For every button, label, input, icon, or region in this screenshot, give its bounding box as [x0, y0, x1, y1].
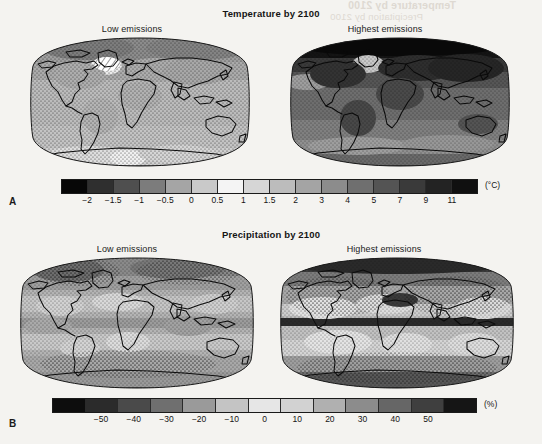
panel-b-colorbar: −50 −40 −30 −20 −10 0 10 20 30 40 50 (%)	[52, 398, 477, 428]
panel-a-temperature: Temperature by 2100 Low emissions Highes…	[0, 0, 542, 222]
colorbar-tick: 1.5	[264, 195, 276, 205]
panel-b-map-high-label: Highest emissions	[296, 244, 472, 254]
colorbar-swatch	[151, 399, 184, 412]
panel-a-colorbar-gradient	[61, 179, 478, 194]
colorbar-tick: −50	[94, 414, 108, 424]
colorbar-swatch	[62, 180, 88, 193]
colorbar-swatch	[216, 399, 249, 412]
colorbar-swatch	[218, 180, 244, 193]
colorbar-tick: 3	[319, 195, 324, 205]
colorbar-swatch	[444, 399, 476, 412]
colorbar-swatch	[322, 180, 348, 193]
colorbar-tick: 0.5	[211, 195, 223, 205]
colorbar-tick: 7	[397, 195, 402, 205]
panel-a-map-high-label: Highest emissions	[300, 24, 470, 34]
colorbar-tick: 9	[424, 195, 429, 205]
panel-b-title: Precipitation by 2100	[0, 229, 542, 240]
panel-b-letter: B	[9, 418, 17, 429]
colorbar-tick: −0.5	[157, 195, 174, 205]
colorbar-swatch	[281, 399, 314, 412]
colorbar-swatch	[244, 180, 270, 193]
colorbar-tick: 0	[189, 195, 194, 205]
colorbar-tick: −2	[82, 195, 92, 205]
colorbar-swatch	[183, 399, 216, 412]
colorbar-tick: 30	[358, 414, 367, 424]
panel-a-map-highest-emissions	[288, 36, 512, 168]
colorbar-swatch	[346, 399, 379, 412]
colorbar-swatch	[249, 399, 282, 412]
colorbar-tick: 40	[391, 414, 400, 424]
colorbar-swatch	[452, 180, 477, 193]
panel-a-map-low-label: Low emissions	[52, 24, 212, 34]
colorbar-tick: 0	[262, 414, 267, 424]
colorbar-tick: 4	[345, 195, 350, 205]
colorbar-tick: −1	[134, 195, 144, 205]
panel-a-colorbar-ticks: −2 −1.5 −1 −0.5 0 0.5 1 1.5 2 3 4 5 7 9 …	[61, 195, 478, 209]
colorbar-tick: 2	[293, 195, 298, 205]
panel-b-precipitation: Precipitation by 2100 Low emissions High…	[0, 222, 542, 444]
panel-b-map-highest-emissions	[278, 256, 516, 390]
panel-b-map-low-emissions	[18, 256, 256, 390]
colorbar-swatch	[88, 180, 114, 193]
colorbar-tick: −20	[192, 414, 206, 424]
panel-b-colorbar-gradient	[52, 398, 477, 413]
colorbar-swatch	[412, 399, 445, 412]
panel-a-map-low-emissions	[28, 36, 252, 168]
colorbar-swatch	[114, 180, 140, 193]
colorbar-swatch	[53, 399, 86, 412]
colorbar-swatch	[166, 180, 192, 193]
colorbar-tick: 50	[423, 414, 432, 424]
panel-a-colorbar-unit: (°C)	[485, 180, 500, 190]
panel-a-colorbar: −2 −1.5 −1 −0.5 0 0.5 1 1.5 2 3 4 5 7 9 …	[61, 179, 478, 209]
colorbar-swatch	[400, 180, 426, 193]
panel-a-title: Temperature by 2100	[0, 8, 542, 19]
colorbar-swatch	[118, 399, 151, 412]
colorbar-tick: −40	[127, 414, 141, 424]
colorbar-tick: 10	[292, 414, 301, 424]
colorbar-swatch	[296, 180, 322, 193]
colorbar-swatch	[314, 399, 347, 412]
colorbar-swatch	[379, 399, 412, 412]
colorbar-swatch	[426, 180, 452, 193]
colorbar-tick: −10	[225, 414, 239, 424]
panel-a-letter: A	[9, 196, 17, 207]
colorbar-swatch	[86, 399, 119, 412]
colorbar-tick: 5	[371, 195, 376, 205]
colorbar-tick: −1.5	[105, 195, 122, 205]
colorbar-swatch	[348, 180, 374, 193]
colorbar-swatch	[374, 180, 400, 193]
colorbar-swatch	[270, 180, 296, 193]
colorbar-swatch	[192, 180, 218, 193]
panel-b-colorbar-ticks: −50 −40 −30 −20 −10 0 10 20 30 40 50	[52, 414, 477, 428]
colorbar-tick: 11	[448, 195, 457, 205]
panel-b-colorbar-unit: (%)	[484, 399, 497, 409]
colorbar-tick: 20	[325, 414, 334, 424]
colorbar-tick: 1	[241, 195, 246, 205]
panel-b-map-low-label: Low emissions	[42, 244, 212, 254]
colorbar-tick: −30	[159, 414, 173, 424]
colorbar-swatch	[140, 180, 166, 193]
climate-projection-figure: Temperature by 2100 Precipitation by 210…	[0, 0, 542, 444]
